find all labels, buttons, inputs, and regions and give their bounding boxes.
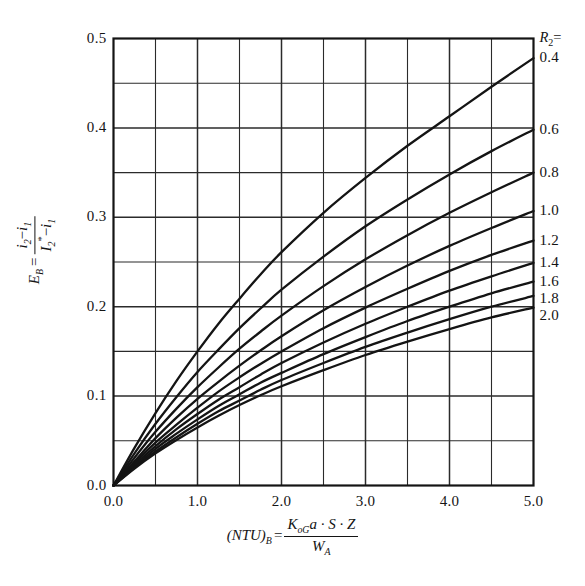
legend-title-equals: = bbox=[553, 29, 561, 45]
x-tick-3.0: 3.0 bbox=[341, 493, 391, 510]
x-num-k-sub: oG bbox=[297, 524, 309, 535]
y-den-a: I bbox=[39, 247, 55, 252]
curve-label-r2-1.8: 1.8 bbox=[540, 290, 560, 307]
x-tick-2.0: 2.0 bbox=[257, 493, 307, 510]
x-den-w: W bbox=[312, 538, 325, 554]
legend-title-r2: R2= bbox=[540, 29, 562, 48]
curve-label-r2-0.8: 0.8 bbox=[540, 164, 560, 181]
y-num-b: i bbox=[14, 227, 30, 231]
y-axis-label-container: EB=i2−i1I2*−i1 bbox=[8, 150, 64, 350]
y-tick-0.1: 0.1 bbox=[87, 387, 107, 404]
x-label-numerator: KoGa · S · Z bbox=[284, 516, 358, 537]
x-label-lhs: (NTU) bbox=[227, 527, 266, 543]
y-tick-0.5: 0.5 bbox=[87, 30, 107, 47]
y-label-symbol-sub: B bbox=[34, 269, 45, 275]
y-label-fraction: i2−i1I2*−i1 bbox=[14, 216, 57, 255]
y-num-a: i bbox=[14, 244, 30, 248]
curve-label-r2-1.4: 1.4 bbox=[540, 254, 560, 271]
x-den-w-sub: A bbox=[325, 546, 331, 557]
y-den-minus: − bbox=[39, 228, 55, 236]
x-tick-1.0: 1.0 bbox=[173, 493, 223, 510]
y-den-b-sub: 1 bbox=[47, 219, 58, 224]
chart-figure: 0.00.10.20.30.40.5 0.01.02.03.04.05.0 0.… bbox=[0, 0, 585, 586]
x-num-rest: a · S · Z bbox=[309, 516, 355, 532]
curve-label-r2-1.0: 1.0 bbox=[540, 202, 560, 219]
curve-label-r2-0.4: 0.4 bbox=[540, 49, 560, 66]
y-tick-0.4: 0.4 bbox=[87, 119, 107, 136]
x-label-denominator: WA bbox=[284, 537, 358, 557]
x-label-fraction: KoGa · S · ZWA bbox=[284, 516, 358, 557]
curve-label-r2-2.0: 2.0 bbox=[540, 307, 560, 324]
curve-label-r2-1.2: 1.2 bbox=[540, 232, 560, 249]
x-tick-0.0: 0.0 bbox=[89, 493, 139, 510]
y-num-minus: − bbox=[14, 231, 30, 239]
x-tick-4.0: 4.0 bbox=[425, 493, 475, 510]
curve-label-r2-1.6: 1.6 bbox=[540, 273, 560, 290]
x-label-lhs-sub: B bbox=[266, 535, 272, 546]
y-den-a-star: * bbox=[37, 236, 48, 241]
y-label-symbol: E bbox=[26, 275, 42, 284]
y-axis-label: EB=i2−i1I2*−i1 bbox=[14, 216, 57, 284]
x-label-equals: = bbox=[272, 527, 284, 543]
y-label-numerator: i2−i1 bbox=[14, 216, 35, 255]
y-den-a-sub: 2 bbox=[47, 242, 58, 247]
y-tick-0.3: 0.3 bbox=[87, 208, 107, 225]
x-tick-5.0: 5.0 bbox=[509, 493, 559, 510]
y-label-equals: = bbox=[26, 255, 42, 269]
y-label-denominator: I2*−i1 bbox=[36, 216, 58, 255]
y-den-b: i bbox=[39, 224, 55, 228]
x-axis-label: (NTU)B=KoGa · S · ZWA bbox=[0, 516, 585, 557]
y-tick-0.0: 0.0 bbox=[87, 477, 107, 494]
y-tick-0.2: 0.2 bbox=[87, 298, 107, 315]
x-label-inner: (NTU)B=KoGa · S · ZWA bbox=[227, 527, 359, 543]
y-num-a-sub: 2 bbox=[22, 239, 33, 244]
curve-label-r2-0.6: 0.6 bbox=[540, 121, 560, 138]
x-num-k: K bbox=[287, 516, 297, 532]
y-num-b-sub: 1 bbox=[22, 222, 33, 227]
